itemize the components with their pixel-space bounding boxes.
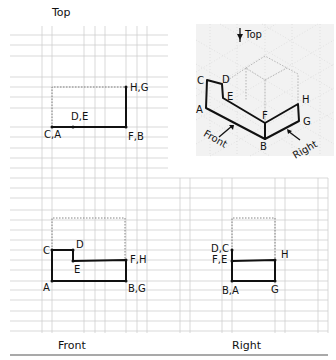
right-label-dc: D,C	[211, 243, 229, 254]
label-ca: C,A	[44, 129, 61, 140]
isometric-view: Top Front Right C D E A F B H G	[196, 24, 334, 161]
iso-vertex-c: C	[197, 75, 204, 86]
front-label-a: A	[43, 282, 50, 293]
iso-vertex-d: D	[222, 74, 230, 85]
orthographic-views-diagram: Top H,G D,E C,A F,B	[0, 0, 336, 360]
front-label-e: E	[74, 264, 80, 275]
right-label-h: H	[281, 249, 289, 260]
label-fb: F,B	[128, 131, 144, 142]
front-label-c: C	[43, 245, 50, 256]
top-view-grid	[10, 26, 168, 168]
iso-vertex-b: B	[260, 141, 267, 152]
right-label-g: G	[271, 284, 279, 295]
front-label-d: D	[76, 239, 84, 250]
right-label-fe: F,E	[212, 254, 227, 265]
right-view: D,C F,E H B,A G Right	[211, 218, 289, 352]
iso-vertex-a: A	[196, 104, 203, 115]
front-view-title: Front	[58, 339, 87, 352]
front-label-fh: F,H	[130, 254, 146, 265]
right-label-ba: B,A	[222, 285, 239, 296]
label-de: D,E	[71, 111, 88, 122]
iso-vertex-f: F	[262, 110, 268, 121]
top-view: Top H,G D,E C,A F,B	[44, 6, 148, 142]
label-hg: H,G	[130, 82, 148, 93]
top-view-title: Top	[51, 6, 71, 19]
iso-top-label: Top	[244, 29, 262, 40]
front-label-bg: B,G	[128, 283, 146, 294]
iso-vertex-h: H	[302, 94, 310, 105]
right-view-title: Right	[232, 339, 262, 352]
iso-vertex-g: G	[303, 116, 311, 127]
iso-vertex-e: E	[227, 91, 233, 102]
